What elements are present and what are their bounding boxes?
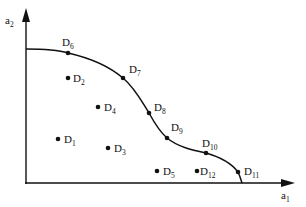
- point-label-D1: D1: [64, 133, 76, 148]
- x-axis-label: a1: [281, 189, 290, 204]
- frontier-point-D6: [66, 51, 71, 56]
- y-axis-label: a2: [5, 14, 14, 29]
- interior-point-D1: [56, 137, 61, 142]
- pareto-frontier-diagram: a2 a1 D6D7D8D9D10D11D2D4D1D3D5D12: [0, 0, 306, 207]
- interior-point-D4: [96, 105, 101, 110]
- point-label-D12: D12: [200, 165, 216, 180]
- frontier-point-D9: [165, 136, 170, 141]
- point-label-D7: D7: [129, 63, 141, 78]
- point-label-D8: D8: [154, 101, 166, 116]
- point-label-D9: D9: [171, 121, 183, 136]
- interior-point-D5: [155, 169, 160, 174]
- interior-point-D3: [106, 146, 111, 151]
- frontier-point-D7: [121, 76, 126, 81]
- point-label-D2: D2: [73, 72, 85, 87]
- y-axis-arrow-icon: [22, 8, 30, 22]
- frontier-point-D10: [204, 151, 209, 156]
- frontier-point-D11: [236, 170, 241, 175]
- point-label-D5: D5: [163, 165, 175, 180]
- point-label-D3: D3: [114, 142, 126, 157]
- interior-point-D2: [66, 76, 71, 81]
- x-axis-arrow-icon: [281, 179, 295, 187]
- frontier-point-D8: [147, 111, 152, 116]
- point-label-D6: D6: [62, 36, 74, 51]
- point-label-D10: D10: [202, 137, 218, 152]
- point-label-D11: D11: [244, 165, 259, 180]
- point-label-D4: D4: [104, 101, 116, 116]
- interior-point-D12: [195, 169, 200, 174]
